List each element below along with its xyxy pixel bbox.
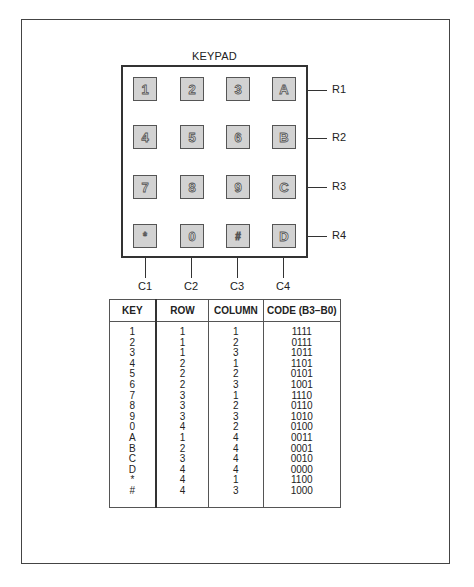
cell-row: 1 bbox=[156, 322, 209, 338]
row-label-3: R3 bbox=[332, 180, 346, 192]
key-c[interactable]: C bbox=[272, 175, 296, 199]
key-3[interactable]: 3 bbox=[226, 77, 250, 101]
column-label-3: C3 bbox=[222, 280, 252, 292]
key-a[interactable]: A bbox=[272, 77, 296, 101]
key-5[interactable]: 5 bbox=[180, 125, 204, 149]
keypad-title: KEYPAD bbox=[121, 50, 308, 62]
table-row: 6231001 bbox=[110, 380, 341, 391]
column-line-2 bbox=[191, 258, 192, 278]
cell-row: 1 bbox=[156, 433, 209, 444]
row-line-2 bbox=[308, 138, 327, 139]
key-b[interactable]: B bbox=[272, 125, 296, 149]
header-column: COLUMN bbox=[209, 300, 263, 322]
cell-column: 3 bbox=[209, 486, 263, 507]
keypad-body: 123A456B789C*0#D bbox=[121, 65, 308, 258]
key-1[interactable]: 1 bbox=[133, 77, 157, 101]
column-line-1 bbox=[145, 258, 146, 278]
column-line-4 bbox=[283, 258, 284, 278]
column-label-1: C1 bbox=[130, 280, 160, 292]
key-2[interactable]: 2 bbox=[180, 77, 204, 101]
key-6[interactable]: 6 bbox=[226, 125, 250, 149]
cell-key: 6 bbox=[110, 380, 156, 391]
cell-key: 1 bbox=[110, 322, 156, 338]
cell-column: 4 bbox=[209, 433, 263, 444]
column-label-2: C2 bbox=[176, 280, 206, 292]
cell-code: 1111 bbox=[263, 322, 340, 338]
key-7[interactable]: 7 bbox=[133, 175, 157, 199]
row-line-4 bbox=[308, 236, 327, 237]
table-header-row: KEY ROW COLUMN CODE (B3–B0) bbox=[110, 300, 341, 322]
cell-row: 2 bbox=[156, 380, 209, 391]
table-row: #431000 bbox=[110, 486, 341, 507]
cell-code: 1000 bbox=[263, 486, 340, 507]
key-code-table: KEY ROW COLUMN CODE (B3–B0) 111111121201… bbox=[109, 299, 341, 508]
cell-code: 1001 bbox=[263, 380, 340, 391]
table-row: A140011 bbox=[110, 433, 341, 444]
cell-row: 4 bbox=[156, 486, 209, 507]
table-row: 1111111 bbox=[110, 322, 341, 338]
key-d[interactable]: D bbox=[272, 224, 296, 248]
row-label-2: R2 bbox=[332, 131, 346, 143]
row-label-1: R1 bbox=[332, 83, 346, 95]
column-line-3 bbox=[237, 258, 238, 278]
cell-key: A bbox=[110, 433, 156, 444]
key-0[interactable]: 0 bbox=[180, 224, 204, 248]
key-4[interactable]: 4 bbox=[133, 125, 157, 149]
key-hash[interactable]: # bbox=[226, 224, 250, 248]
cell-column: 1 bbox=[209, 322, 263, 338]
row-line-1 bbox=[308, 90, 327, 91]
header-key: KEY bbox=[110, 300, 156, 322]
key-8[interactable]: 8 bbox=[180, 175, 204, 199]
cell-key: # bbox=[110, 486, 156, 507]
row-line-3 bbox=[308, 187, 327, 188]
key-star[interactable]: * bbox=[133, 224, 157, 248]
row-label-4: R4 bbox=[332, 229, 346, 241]
cell-column: 3 bbox=[209, 380, 263, 391]
header-row: ROW bbox=[156, 300, 209, 322]
cell-code: 0011 bbox=[263, 433, 340, 444]
column-label-4: C4 bbox=[268, 280, 298, 292]
header-code: CODE (B3–B0) bbox=[263, 300, 340, 322]
key-9[interactable]: 9 bbox=[226, 175, 250, 199]
